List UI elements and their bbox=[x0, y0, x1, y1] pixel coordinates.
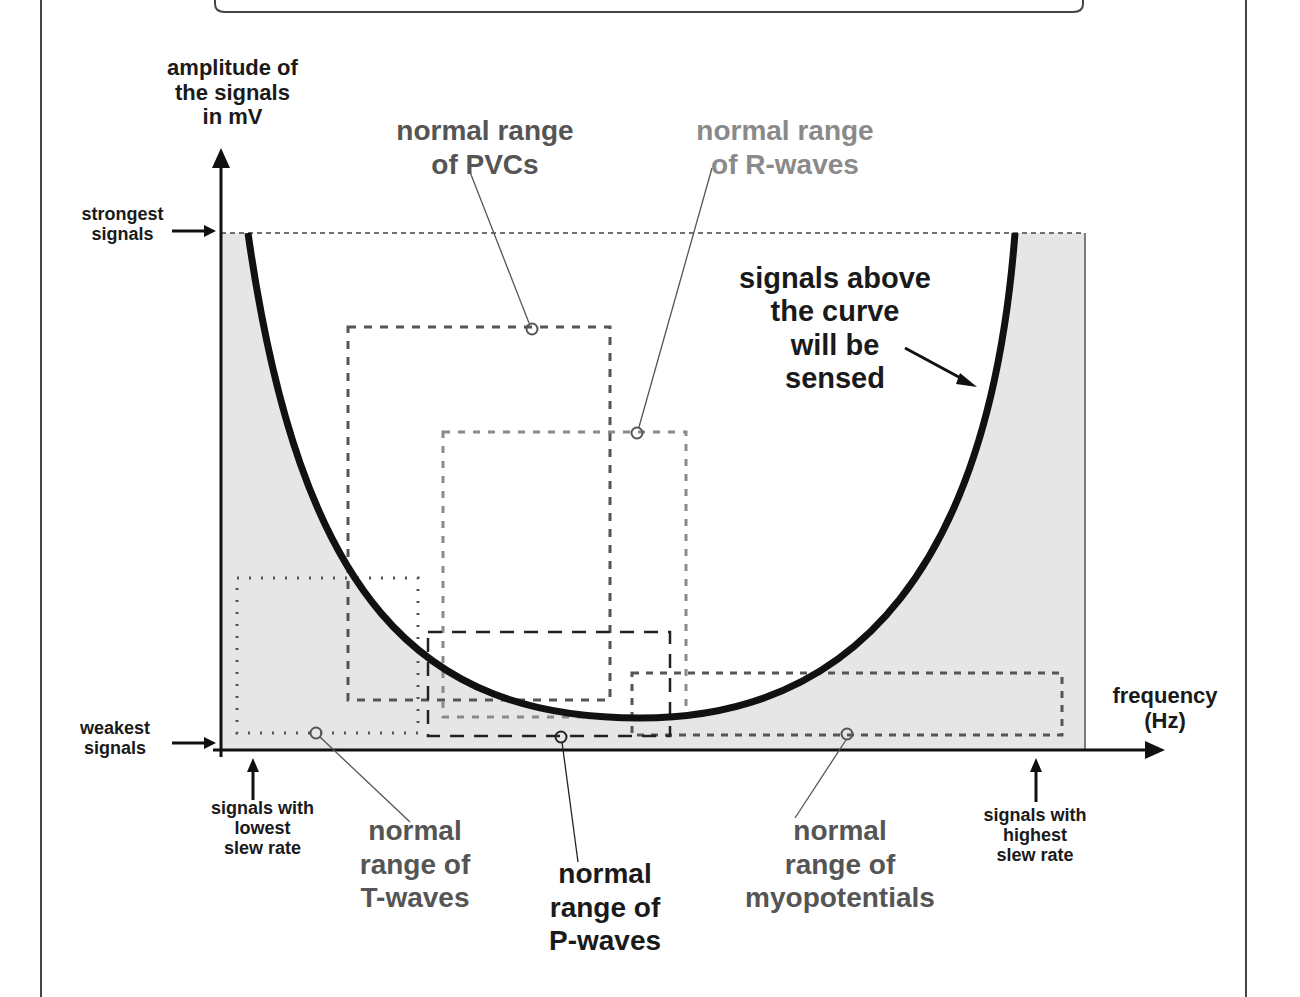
myopotential-leader-line bbox=[795, 740, 846, 818]
top-caption-bar bbox=[215, 0, 1083, 12]
x-axis-arrow-icon bbox=[1145, 741, 1165, 759]
strongest-arrow-icon bbox=[204, 225, 216, 237]
t-wave-range-label: normal range of T-waves bbox=[320, 814, 510, 915]
x-axis-label: frequency (Hz) bbox=[1085, 684, 1245, 733]
strongest-signals-label: strongest signals bbox=[55, 204, 190, 244]
pvc-range-label: normal range of PVCs bbox=[360, 114, 610, 181]
sensing-diagram: amplitude of the signals in mV strongest… bbox=[0, 0, 1300, 997]
r-wave-range-label: normal range of R-waves bbox=[660, 114, 910, 181]
y-axis-arrow-icon bbox=[212, 148, 230, 168]
highest-slew-arrow-icon bbox=[1030, 758, 1042, 772]
weakest-arrow-icon bbox=[204, 737, 216, 749]
p-wave-range-label: normal range of P-waves bbox=[510, 857, 700, 958]
y-axis-label: amplitude of the signals in mV bbox=[120, 56, 345, 130]
curve-annotation-label: signals above the curve will be sensed bbox=[700, 262, 970, 395]
weakest-signals-label: weakest signals bbox=[55, 718, 175, 758]
myopotential-range-label: normal range of myopotentials bbox=[705, 814, 975, 915]
highest-slew-rate-label: signals with highest slew rate bbox=[950, 805, 1120, 865]
lowest-slew-arrow-icon bbox=[247, 758, 259, 772]
pvc-leader-line bbox=[470, 172, 529, 323]
pvc-leader-circle bbox=[527, 324, 538, 335]
p-wave-leader-line bbox=[562, 742, 578, 862]
